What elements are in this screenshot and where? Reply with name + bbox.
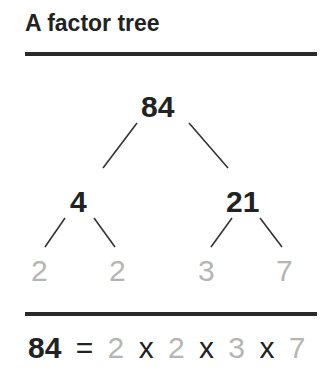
leaf-2b: 2 xyxy=(109,256,126,286)
node-21: 21 xyxy=(226,187,259,217)
factorization-equation: 84 = 2 x 2 x 3 x 7 xyxy=(28,333,305,363)
times-sign-3: x xyxy=(259,333,274,363)
tree-branches xyxy=(0,0,331,381)
equation-lhs: 84 xyxy=(28,333,61,363)
factor-1: 2 xyxy=(108,333,125,363)
factor-4: 7 xyxy=(289,333,306,363)
factor-3: 3 xyxy=(228,333,245,363)
node-4: 4 xyxy=(70,187,87,217)
node-root: 84 xyxy=(141,92,174,122)
factor-2: 2 xyxy=(168,333,185,363)
leaf-2a: 2 xyxy=(31,256,48,286)
branch-21-7 xyxy=(260,218,282,247)
branch-4-2a xyxy=(45,218,65,247)
branch-84-4 xyxy=(103,123,137,168)
bottom-divider xyxy=(25,312,317,316)
leaf-7: 7 xyxy=(276,256,293,286)
times-sign-1: x xyxy=(139,333,154,363)
branch-4-2b xyxy=(94,218,115,247)
leaf-3: 3 xyxy=(198,256,215,286)
times-sign-2: x xyxy=(199,333,214,363)
equals-sign: = xyxy=(76,333,94,363)
branch-21-3 xyxy=(211,218,232,247)
branch-84-21 xyxy=(189,123,228,168)
